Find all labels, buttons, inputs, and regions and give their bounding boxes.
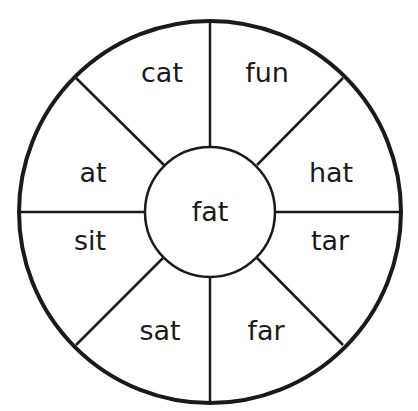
segment-word-sat: sat — [139, 315, 180, 346]
segment-word-at: at — [79, 157, 106, 188]
segment-word-far: far — [247, 315, 285, 346]
segment-word-cat: cat — [141, 57, 183, 88]
segment-word-hat: hat — [309, 157, 353, 188]
segment-word-tar: tar — [311, 225, 350, 256]
word-wheel: fat cat fun hat tar far sat sit at — [0, 0, 418, 411]
center-word: fat — [192, 196, 229, 227]
segment-word-fun: fun — [245, 57, 289, 88]
segment-word-sit: sit — [74, 225, 106, 256]
